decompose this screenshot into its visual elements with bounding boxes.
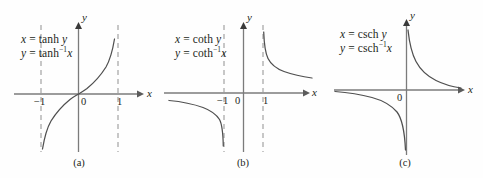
panel-a-eq2-exponent: −1 — [59, 45, 67, 54]
panel-c-eq2-var: x — [387, 42, 392, 54]
panel-c: x y 0 x = csch y y = csch−1x (c) — [323, 0, 483, 178]
panel-b-tick-neg1: −1 — [217, 95, 228, 106]
panel-c-eq1-var: y — [382, 28, 387, 40]
panel-b: x y 0 −1 1 x = coth y y = coth−1x (b) — [160, 0, 323, 178]
panel-b-y-axis — [240, 22, 247, 152]
panel-a-plot — [0, 0, 160, 178]
panel-c-eq1-equals: = — [348, 28, 355, 40]
panel-b-eq1-fn: coth — [193, 33, 213, 45]
panel-b-tick-pos1: 1 — [263, 95, 268, 106]
panel-a-y-axis — [75, 22, 82, 152]
panel-b-eq1-equals: = — [183, 33, 190, 45]
panel-c-eq2-fn: csch — [358, 42, 379, 54]
panel-a-tick-pos1: 1 — [117, 96, 122, 107]
panel-c-eq1-fn: csch — [358, 28, 379, 40]
panel-a-x-axis-label: x — [147, 87, 152, 99]
panel-b-caption: (b) — [230, 157, 256, 168]
panel-b-equation-2: y = coth−1x — [175, 46, 226, 60]
panel-a-caption: (a) — [66, 157, 92, 168]
panel-b-eq2-exponent: −1 — [213, 45, 221, 54]
panel-c-eq2-exponent: −1 — [379, 40, 387, 49]
panel-b-curve-right-branch — [264, 32, 312, 78]
panel-a-eq2-fn: tanh — [39, 47, 59, 59]
panel-a-eq2-var: x — [67, 47, 72, 59]
panel-a-origin-label: 0 — [81, 96, 86, 107]
panel-b-eq2-fn: coth — [193, 47, 213, 59]
panel-a-equation-2: y = tanh−1x — [21, 46, 72, 60]
panel-c-equation-1: x = csch y — [340, 27, 387, 41]
panel-a-eq1-equals: = — [29, 33, 36, 45]
panel-a-eq2-equals: = — [29, 47, 36, 59]
panel-b-origin-label: 0 — [235, 95, 240, 106]
panel-b-y-axis-label: y — [247, 11, 252, 23]
panel-c-curve-lower-left — [335, 92, 406, 151]
panel-c-origin-label: 0 — [397, 92, 402, 103]
panel-b-plot — [160, 0, 323, 178]
panel-a-tick-neg1: −1 — [34, 96, 45, 107]
panel-a-equation-1: x = tanh y — [21, 32, 67, 46]
panel-b-x-axis-label: x — [312, 86, 317, 98]
panel-c-y-axis-label: y — [410, 9, 415, 21]
panel-a-eq1-var: y — [62, 33, 67, 45]
panel-c-x-axis-label: x — [468, 83, 473, 95]
panel-c-caption: (c) — [392, 157, 418, 168]
panel-c-curve-upper-right — [408, 30, 461, 88]
panel-a-eq1-fn: tanh — [39, 33, 59, 45]
panel-a-y-axis-label: y — [82, 11, 87, 23]
panel-c-eq2-equals: = — [348, 42, 355, 54]
hyperbolic-inverse-graphs-figure: x y 0 −1 1 x = tanh y y = tanh−1x (a) — [0, 0, 483, 178]
panel-b-eq2-var: x — [221, 47, 226, 59]
panel-b-curve-left-branch — [169, 101, 223, 147]
panel-b-eq2-equals: = — [183, 47, 190, 59]
panel-c-equation-2: y = csch−1x — [340, 41, 392, 55]
panel-a: x y 0 −1 1 x = tanh y y = tanh−1x (a) — [0, 0, 160, 178]
panel-b-eq1-var: y — [216, 33, 221, 45]
panel-b-equation-1: x = coth y — [175, 32, 221, 46]
